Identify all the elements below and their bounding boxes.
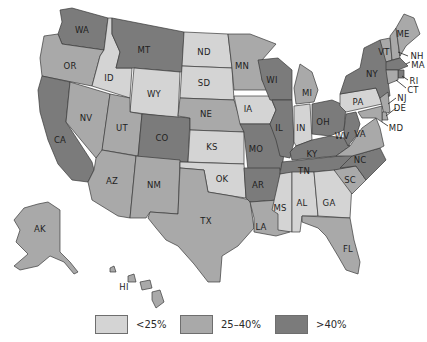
label-WA: WA <box>75 25 89 35</box>
label-KS: KS <box>206 142 217 152</box>
label-UT: UT <box>116 123 128 133</box>
label-WI: WI <box>266 75 277 85</box>
state-IA[interactable] <box>234 96 276 124</box>
label-IL: IL <box>275 123 283 133</box>
label-NJ: NJ <box>397 93 406 103</box>
label-TN: TN <box>297 166 310 176</box>
label-ID: ID <box>104 73 114 83</box>
label-MN: MN <box>235 61 249 71</box>
label-MO: MO <box>249 144 264 154</box>
label-KY: KY <box>307 149 318 159</box>
label-IN: IN <box>296 123 305 133</box>
label-MA: MA <box>411 60 425 70</box>
label-IA: IA <box>244 104 253 114</box>
label-HI: HI <box>119 282 128 292</box>
legend-label-high: >40% <box>316 319 347 330</box>
label-NC: NC <box>354 155 367 165</box>
label-TX: TX <box>199 216 211 226</box>
label-CA: CA <box>54 135 66 145</box>
callout-CT <box>396 80 406 88</box>
label-CO: CO <box>155 133 168 143</box>
callout-MD <box>382 122 388 126</box>
label-WY: WY <box>147 89 162 99</box>
label-AK: AK <box>34 224 46 234</box>
label-AL: AL <box>297 198 308 208</box>
label-FL: FL <box>343 244 353 254</box>
label-MD: MD <box>389 123 404 133</box>
label-GA: GA <box>323 198 336 208</box>
legend-item-low: <25% <box>95 315 167 334</box>
label-VT: VT <box>378 47 390 57</box>
legend-label-low: <25% <box>136 319 167 330</box>
label-NY: NY <box>366 69 379 79</box>
legend-swatch-low <box>95 315 128 334</box>
label-OH: OH <box>316 117 329 127</box>
callout-MA <box>406 62 410 64</box>
label-SD: SD <box>198 78 211 88</box>
legend-swatch-mid <box>180 315 213 334</box>
label-MT: MT <box>138 45 152 55</box>
label-NM: NM <box>147 180 161 190</box>
us-choropleth-map: WA OR CA ID NV MT WY UT CO AZ NM ND SD N… <box>0 0 427 342</box>
label-ME: ME <box>396 29 409 39</box>
label-MI: MI <box>302 88 312 98</box>
label-NV: NV <box>80 113 93 123</box>
legend-item-mid: 25–40% <box>180 315 261 334</box>
label-AR: AR <box>252 180 264 190</box>
state-MI[interactable] <box>294 64 318 104</box>
label-WV: WV <box>335 131 350 141</box>
label-LA: LA <box>255 222 266 232</box>
label-ND: ND <box>197 47 211 57</box>
legend: <25% 25–40% >40% <box>0 300 427 342</box>
label-CT: CT <box>407 85 419 95</box>
state-CT[interactable] <box>386 70 398 84</box>
label-SC: SC <box>344 175 356 185</box>
label-AZ: AZ <box>106 176 118 186</box>
label-NE: NE <box>200 109 212 119</box>
label-MS: MS <box>273 203 286 213</box>
label-DE: DE <box>394 103 406 113</box>
label-OR: OR <box>64 61 77 71</box>
legend-item-high: >40% <box>275 315 347 334</box>
state-AK[interactable] <box>14 202 78 274</box>
legend-swatch-high <box>275 315 308 334</box>
legend-label-mid: 25–40% <box>221 319 261 330</box>
label-VA: VA <box>354 129 366 139</box>
label-OK: OK <box>216 174 229 184</box>
label-PA: PA <box>353 97 364 107</box>
